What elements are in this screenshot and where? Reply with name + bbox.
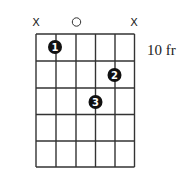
open-string-marker (72, 18, 80, 26)
finger-number: 2 (111, 70, 118, 81)
chord-diagram: X X 10 fr 1 2 3 (0, 0, 193, 170)
fret-position-label: 10 fr (147, 42, 176, 58)
muted-string-marker: X (130, 16, 138, 29)
finger-dot-1: 1 (48, 40, 62, 54)
finger-dot-2: 2 (108, 68, 122, 82)
finger-number: 3 (92, 97, 99, 108)
fretboard-grid (36, 34, 135, 167)
finger-number: 1 (52, 42, 59, 53)
muted-string-marker: X (32, 16, 40, 29)
finger-dot-3: 3 (89, 95, 103, 109)
string-markers: X X (32, 16, 138, 29)
